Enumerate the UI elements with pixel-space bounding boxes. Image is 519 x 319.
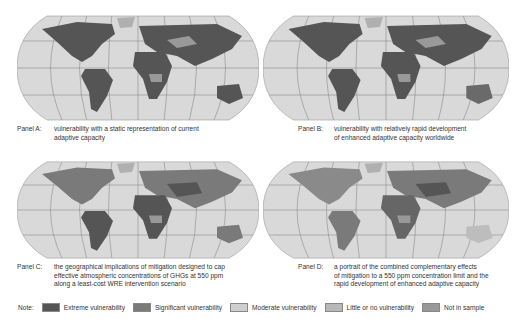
panel-label: Panel D: [298, 263, 323, 272]
caption-line: vulnerability with a static representati… [54, 125, 199, 134]
caption-line: effective atmospheric concentrations of … [54, 272, 225, 281]
legend-item-little: Little or no vulnerability [325, 303, 414, 312]
caption-line: along a least-cost WRE intervention scen… [54, 280, 225, 289]
legend-item-significant: Significant vulnerability [133, 303, 222, 312]
caption-line: adaptive capacity [54, 134, 199, 143]
caption-line: rapid development of enhanced adaptive c… [334, 280, 489, 289]
swatch-icon [230, 303, 248, 312]
swatch-icon [133, 303, 151, 312]
panel-label: Panel B: [298, 125, 323, 134]
caption-line: vulnerability with relatively rapid deve… [334, 125, 466, 134]
world-map-panel-c [17, 160, 259, 260]
caption-line: of mitigation to a 550 ppm concentration… [334, 272, 489, 281]
caption-line: of enhanced adaptive capacity worldwide [334, 134, 466, 143]
panel-label: Panel C: [17, 263, 42, 272]
world-map-panel-d [263, 160, 509, 260]
legend-note: Note: [18, 304, 34, 311]
swatch-icon [325, 303, 343, 312]
caption-line: a portrait of the combined complementary… [334, 263, 489, 272]
legend-item-not-in-sample: Not in sample [422, 303, 484, 312]
world-map-panel-a [17, 14, 259, 122]
legend-item-extreme: Extreme vulnerability [42, 303, 125, 312]
swatch-icon [42, 303, 60, 312]
legend: Note: Extreme vulnerability Significant … [18, 303, 492, 312]
legend-item-moderate: Moderate vulnerability [230, 303, 317, 312]
swatch-icon [422, 303, 440, 312]
caption-line: the geographical implications of mitigat… [54, 263, 225, 272]
panel-label: Panel A: [17, 125, 42, 134]
world-map-panel-b [263, 14, 509, 122]
